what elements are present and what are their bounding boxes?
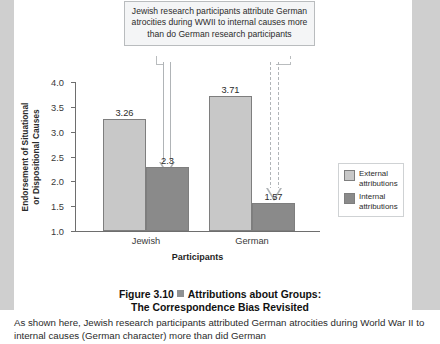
y-tick-3.5: 3.5 xyxy=(71,107,76,108)
legend-label-internal-line1: Internal xyxy=(359,192,398,202)
plot-area: 4.0 3.5 3.0 2.5 2.0 1.5 1.0 3.26 2.3 Jew… xyxy=(75,82,320,232)
y-tick-3.0: 3.0 xyxy=(71,132,76,133)
square-marker-icon xyxy=(177,290,184,297)
legend-swatch-internal-icon xyxy=(344,193,355,204)
y-tick-label-6: 1.0 xyxy=(51,227,64,237)
y-tick-1.0: 1.0 xyxy=(71,231,76,232)
legend-label-external-line2: attributions xyxy=(359,179,398,189)
y-tick-1.5: 1.5 xyxy=(71,206,76,207)
legend-swatch-external-icon xyxy=(344,170,355,181)
legend-item-internal: Internal attributions xyxy=(344,192,399,211)
caption-title-line1: Attributions about Groups: xyxy=(188,289,321,300)
figure-page: Jewish research participants attribute G… xyxy=(0,0,440,344)
legend-label-internal-line2: attributions xyxy=(359,202,398,212)
x-axis-label: Participants xyxy=(75,252,320,262)
legend-label-external-line1: External xyxy=(359,169,398,179)
legend-label-external: External attributions xyxy=(359,169,398,188)
chart-legend: External attributions Internal attributi… xyxy=(338,163,404,217)
bar-value-german-external: 3.71 xyxy=(221,85,239,95)
x-tick-label-german: German xyxy=(235,236,269,246)
y-tick-label-5: 1.5 xyxy=(51,202,64,212)
y-tick-label-1: 3.5 xyxy=(51,103,64,113)
bar-german-external: 3.71 xyxy=(209,96,252,231)
legend-item-external: External attributions xyxy=(344,169,399,188)
caption-figure-number: Figure 3.10 xyxy=(119,289,174,300)
y-axis-label: Endorsement of Situational or Dispositio… xyxy=(20,82,34,232)
y-tick-label-0: 4.0 xyxy=(51,78,64,88)
caption-title: Figure 3.10Attributions about Groups: Th… xyxy=(14,288,426,314)
bar-value-jewish-external: 3.26 xyxy=(115,108,133,118)
y-tick-2.5: 2.5 xyxy=(71,157,76,158)
callout-text: Jewish research participants attribute G… xyxy=(132,6,308,39)
caption-title-line2: The Correspondence Bias Revisited xyxy=(14,301,426,314)
y-tick-2.0: 2.0 xyxy=(71,181,76,182)
figure-caption: Figure 3.10Attributions about Groups: Th… xyxy=(14,288,426,342)
y-tick-4.0: 4.0 xyxy=(71,82,76,83)
y-tick-label-2: 3.0 xyxy=(51,128,64,138)
bar-value-jewish-internal: 2.3 xyxy=(161,156,174,166)
bar-jewish-external: 3.26 xyxy=(103,119,146,231)
y-tick-label-4: 2.0 xyxy=(51,177,64,187)
bar-jewish-internal: 2.3 xyxy=(146,167,189,232)
bar-value-german-internal: 1.57 xyxy=(264,192,282,202)
caption-body: As shown here, Jewish research participa… xyxy=(14,317,426,342)
y-tick-label-3: 2.5 xyxy=(51,153,64,163)
bar-german-internal: 1.57 xyxy=(252,203,295,231)
x-tick-label-jewish: Jewish xyxy=(132,236,160,246)
y-axis-label-line2: or Dispositional Causes xyxy=(31,82,42,232)
y-axis-label-line1: Endorsement of Situational xyxy=(20,82,31,232)
callout-box: Jewish research participants attribute G… xyxy=(124,1,315,46)
legend-label-internal: Internal attributions xyxy=(359,192,398,211)
